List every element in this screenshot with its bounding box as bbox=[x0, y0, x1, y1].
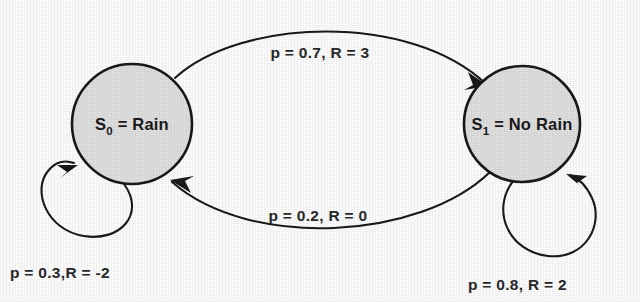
edge-label-s1-to-s0: p = 0.2, R = 0 bbox=[269, 207, 368, 224]
node-s0[interactable]: S0 = Rain bbox=[72, 64, 192, 184]
node-s0-symbol: S bbox=[95, 115, 106, 133]
state-diagram-canvas: S0 = Rain S1 = No Rain p = 0.7, R = 3 p … bbox=[0, 0, 640, 302]
node-s0-name: Rain bbox=[132, 115, 169, 133]
edge-label-s1-self-loop: p = 0.8, R = 2 bbox=[468, 276, 567, 293]
arrowhead-icon bbox=[57, 165, 78, 178]
node-s1-symbol: S bbox=[472, 115, 483, 133]
edge-label-s0-self-loop: p = 0.3,R = -2 bbox=[10, 264, 110, 281]
node-s1-separator: = bbox=[489, 115, 508, 133]
edge-label-s0-to-s1: p = 0.7, R = 3 bbox=[271, 44, 370, 61]
arrowhead-icon bbox=[566, 174, 587, 189]
state-diagram-svg: S0 = Rain S1 = No Rain p = 0.7, R = 3 p … bbox=[0, 0, 640, 302]
node-s1[interactable]: S1 = No Rain bbox=[464, 66, 580, 182]
node-s1-name: No Rain bbox=[509, 115, 573, 133]
edge-s1-self-loop-path bbox=[503, 175, 595, 256]
node-s0-separator: = bbox=[113, 115, 132, 133]
edge-s1-self-loop[interactable] bbox=[503, 174, 595, 256]
